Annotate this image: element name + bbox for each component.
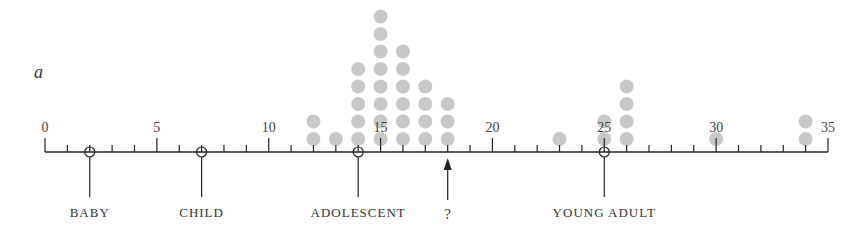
tick-label: 5: [153, 120, 160, 135]
data-dot: [374, 80, 388, 94]
data-dot: [620, 80, 634, 94]
data-dot: [620, 132, 634, 146]
data-dot: [351, 115, 365, 129]
tick-label: 10: [262, 120, 276, 135]
panel-label: a: [34, 62, 43, 82]
arrow-up-icon: [444, 158, 452, 170]
data-dot: [351, 62, 365, 76]
data-dot: [799, 115, 813, 129]
data-dot: [306, 132, 320, 146]
data-dot: [620, 115, 634, 129]
stage-markers: BABYCHILDADOLESCENT?YOUNG ADULT: [70, 147, 656, 222]
data-dot: [418, 97, 432, 111]
unknown-stage-label: ?: [444, 206, 451, 222]
data-dot: [799, 132, 813, 146]
data-dot: [306, 115, 320, 129]
stage-label: CHILD: [179, 205, 224, 220]
data-dot: [374, 97, 388, 111]
stage-label: BABY: [70, 205, 110, 220]
data-dot: [351, 80, 365, 94]
tick-label: 25: [597, 120, 611, 135]
data-dot: [329, 132, 343, 146]
data-dot: [351, 97, 365, 111]
data-dot: [374, 45, 388, 59]
data-dot: [396, 115, 410, 129]
data-dot: [396, 45, 410, 59]
data-dot: [620, 97, 634, 111]
data-dot: [374, 27, 388, 41]
data-dot: [374, 62, 388, 76]
data-dot: [374, 10, 388, 24]
tick-label: 35: [821, 120, 835, 135]
data-dot: [441, 115, 455, 129]
data-dot: [441, 97, 455, 111]
tick-label: 0: [42, 120, 49, 135]
data-dot: [553, 132, 567, 146]
data-dot: [351, 132, 365, 146]
data-dot: [396, 80, 410, 94]
stage-label: ADOLESCENT: [311, 205, 406, 220]
data-dot: [396, 132, 410, 146]
stage-label: YOUNG ADULT: [553, 205, 656, 220]
dot-plot-chart: a 05101520253035 BABYCHILDADOLESCENT?YOU…: [0, 0, 865, 232]
data-dot: [418, 115, 432, 129]
data-dot: [396, 97, 410, 111]
data-dot: [396, 62, 410, 76]
tick-label: 30: [709, 120, 723, 135]
data-dot: [441, 132, 455, 146]
tick-label: 20: [485, 120, 499, 135]
data-dot: [418, 80, 432, 94]
data-dot: [418, 132, 432, 146]
tick-label: 15: [374, 120, 388, 135]
